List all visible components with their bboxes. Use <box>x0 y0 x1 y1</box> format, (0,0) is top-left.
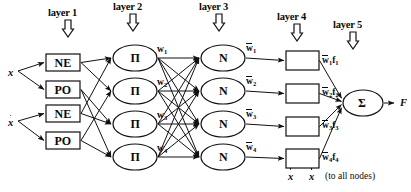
layer2-node-label-3: Π <box>131 118 140 130</box>
layer-label-3: layer 3 <box>199 2 228 13</box>
layer-pointer-arrow-1 <box>63 20 74 37</box>
edges-layer1-to-layer2 <box>81 58 111 157</box>
layer4-output-label-4: w4f4 <box>322 153 339 163</box>
edges-input-to-layer1 <box>18 63 44 141</box>
layer3-weight-label-4: w4 <box>246 143 256 153</box>
layer1-node-label-4: PO <box>55 135 72 147</box>
feed-input-label-xdot: x <box>309 172 314 183</box>
layer1-node-label-1: NE <box>55 57 72 69</box>
layer-pointer-arrows <box>63 14 359 49</box>
edge-l1-2-to-l2-4 <box>81 90 111 158</box>
edge-l3-4-to-l4-4 <box>246 157 284 159</box>
layer4-node-4[interactable] <box>286 149 319 168</box>
layer2-weight-label-1: w1 <box>157 45 167 55</box>
layer-label-2: layer 2 <box>113 2 142 13</box>
edge-xdot-to-l1-4 <box>18 121 44 141</box>
feed-input-note: (to all nodes) <box>325 172 375 182</box>
layer3-node-label-4: N <box>219 151 228 163</box>
layer1-node-label-3: NE <box>55 108 72 120</box>
edge-l3-3-to-l4-3 <box>246 124 284 127</box>
edge-x-to-l1-2 <box>18 71 44 90</box>
layer3-node-label-1: N <box>219 52 228 64</box>
layer4-node-3[interactable] <box>286 117 319 136</box>
layer5-sigma-label: Σ <box>358 97 366 109</box>
layer4-output-label-2: w2f2 <box>322 88 339 98</box>
layer2-node-label-4: Π <box>131 151 140 163</box>
layer4-output-label-3: w3f3 <box>322 121 339 131</box>
layer4-output-label-1: w1f1 <box>322 56 339 66</box>
layer-label-1: layer 1 <box>48 8 77 19</box>
layer2-weight-label-3: w3 <box>157 111 167 121</box>
edge-x-to-l1-1 <box>18 63 44 72</box>
edge-l1-1-to-l2-1 <box>81 58 111 63</box>
layer3-node-label-3: N <box>219 118 228 130</box>
edge-l3-2-to-l4-2 <box>246 91 284 94</box>
layer-label-4: layer 4 <box>277 12 306 23</box>
layer3-weight-label-2: w2 <box>246 77 256 87</box>
layer-label-5: layer 5 <box>333 20 362 31</box>
layer-pointer-arrow-4 <box>292 24 303 41</box>
feed-input-label-x: x <box>288 172 293 183</box>
layer4-node-1[interactable] <box>286 51 319 70</box>
input-label-x: x <box>8 68 13 79</box>
edge-l3-1-to-l4-1 <box>246 58 284 61</box>
edge-xdot-to-l1-3 <box>18 114 44 122</box>
layer-pointer-arrow-2 <box>128 14 139 31</box>
layer3-node-label-2: N <box>219 85 228 97</box>
edge-l1-4-to-l2-4 <box>81 141 111 158</box>
layer4-node-2[interactable] <box>286 84 319 103</box>
layer3-weight-label-3: w3 <box>246 110 256 120</box>
layer4-nodes <box>286 51 319 168</box>
anfis-architecture-diagram: layer 1layer 2layer 3layer 4layer 5NEPON… <box>0 0 411 192</box>
layer3-weight-label-1: w1 <box>246 44 256 54</box>
input-label-xdot: x <box>8 118 13 129</box>
edges-layer4-to-layer5 <box>320 61 342 159</box>
layer2-node-label-2: Π <box>131 85 140 97</box>
output-label-F: F <box>400 98 407 109</box>
layer2-node-label-1: Π <box>131 52 140 64</box>
layer2-weight-label-2: w2 <box>157 78 167 88</box>
layer-pointer-arrow-5 <box>348 32 359 49</box>
layer2-weight-label-4: w4 <box>157 144 167 154</box>
layer-pointer-arrow-3 <box>214 14 225 31</box>
layer1-node-label-2: PO <box>55 84 72 96</box>
edges-layer2-to-layer3 <box>158 58 199 157</box>
